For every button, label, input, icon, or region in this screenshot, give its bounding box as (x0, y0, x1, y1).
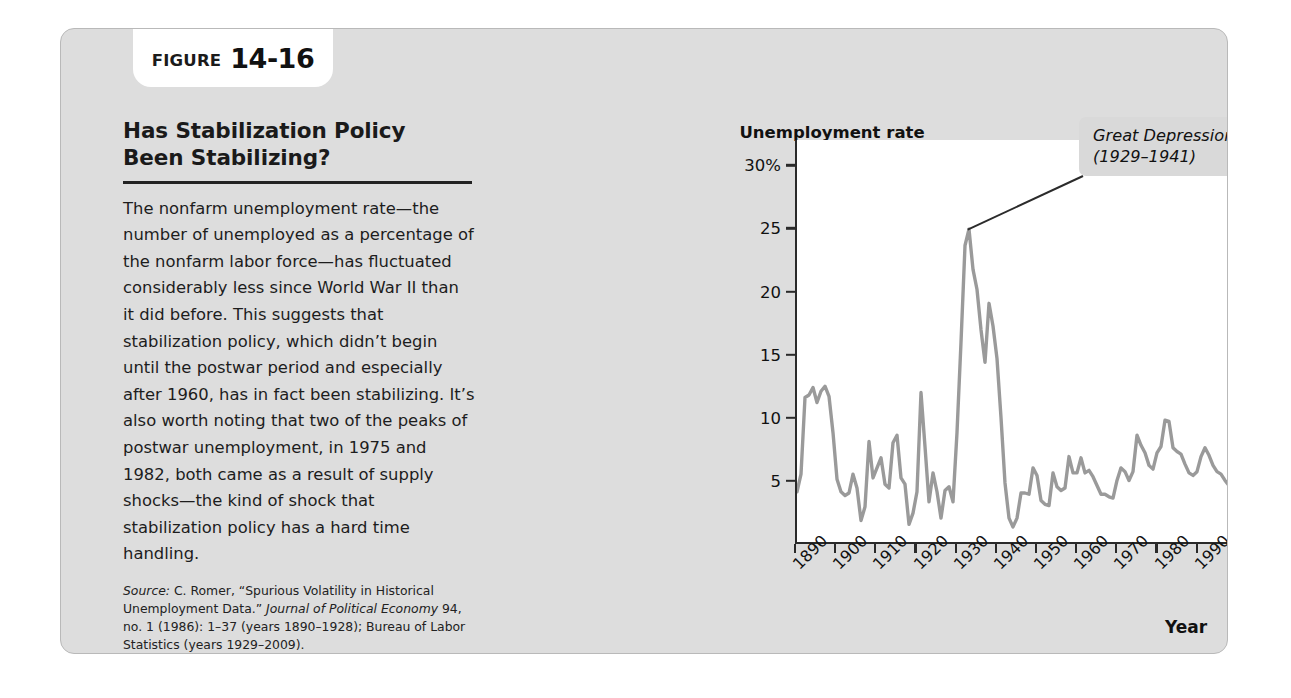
y-tick-label: 15 (760, 345, 781, 364)
chart-container: Unemployment rate 51015202530% 189019001… (735, 101, 1228, 654)
figure-body-text: The nonfarm unemployment rate—the number… (123, 196, 475, 568)
source-label: Source: (123, 583, 170, 598)
y-tick-mark (786, 353, 795, 355)
annotation-great-depression: Great Depression (1929–1941) (1079, 117, 1228, 176)
y-tick-mark (786, 417, 795, 419)
y-tick-mark (786, 227, 795, 229)
y-tick-label: 20 (760, 282, 781, 301)
y-tick-label: 30% (744, 156, 781, 175)
source-journal-name: Journal of Political Economy (266, 601, 438, 616)
x-tick-mark (1155, 544, 1157, 553)
heading-divider (123, 181, 472, 184)
series-line-nonfarm-unemployment-rate (797, 229, 1228, 527)
data-line-svg (797, 140, 1228, 542)
figure-card: FIGURE 14-16 Has Stabilization Policy Be… (60, 28, 1228, 654)
y-tick-label: 10 (760, 408, 781, 427)
figure-heading: Has Stabilization Policy Been Stabilizin… (123, 117, 458, 171)
x-tick-mark (914, 544, 916, 553)
y-tick-mark (786, 164, 795, 166)
figure-number-tab: FIGURE 14-16 (133, 29, 333, 87)
plot-area (795, 140, 1228, 544)
figure-text-column: Has Stabilization Policy Been Stabilizin… (123, 117, 475, 654)
y-tick-mark (786, 290, 795, 292)
y-tick-label: 5 (771, 471, 782, 490)
y-tick-label: 25 (760, 219, 781, 238)
y-tick-mark (786, 480, 795, 482)
figure-number: 14-16 (230, 43, 314, 74)
x-axis-title: Year (1165, 617, 1207, 637)
figure-label: FIGURE (152, 51, 222, 70)
figure-source-citation: Source: C. Romer, “Spurious Volatility i… (123, 582, 475, 654)
